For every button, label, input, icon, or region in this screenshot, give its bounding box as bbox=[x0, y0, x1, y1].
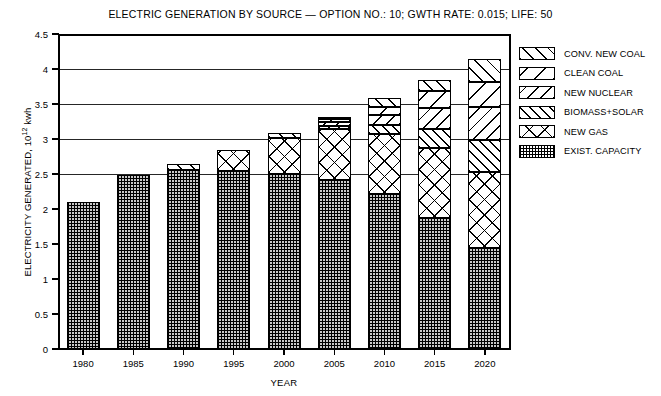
bar-segment-exist-capacity bbox=[167, 170, 200, 349]
x-axis-label: 2020 bbox=[455, 358, 515, 369]
legend-label: BIOMASS+SOLAR bbox=[564, 107, 644, 117]
x-axis-tick bbox=[484, 349, 485, 355]
bar-segment-new-nuclear bbox=[468, 107, 501, 141]
x-axis-tick bbox=[334, 349, 335, 355]
legend-label: CONV. NEW COAL bbox=[564, 49, 645, 59]
x-axis-tick bbox=[384, 349, 385, 355]
bar-2015 bbox=[418, 34, 451, 349]
bar-segment-exist-capacity bbox=[217, 171, 250, 350]
bar-segment-exist-capacity bbox=[318, 180, 351, 349]
bar-segment-exist-capacity bbox=[67, 202, 100, 349]
x-axis-tick bbox=[283, 349, 284, 355]
legend-label: NEW NUCLEAR bbox=[564, 88, 633, 98]
legend-label: CLEAN COAL bbox=[564, 68, 623, 78]
bar-2000 bbox=[268, 34, 301, 349]
y-axis-label: 3.5 bbox=[2, 99, 48, 110]
bar-segment-new-gas bbox=[318, 129, 351, 179]
bar-segment-clean-coal bbox=[418, 91, 451, 108]
bar-segment-exist-capacity bbox=[368, 194, 401, 349]
y-axis-label: 0.5 bbox=[2, 309, 48, 320]
legend-item: NEW NUCLEAR bbox=[519, 83, 659, 103]
bar-2010 bbox=[368, 34, 401, 349]
bar-2005 bbox=[318, 34, 351, 349]
bar-1980 bbox=[67, 34, 100, 349]
bar-2020 bbox=[468, 34, 501, 349]
x-axis-tick bbox=[133, 349, 134, 355]
bar-segment-biomass-solar bbox=[368, 125, 401, 134]
y-axis-label: 4 bbox=[2, 64, 48, 75]
legend-item: CLEAN COAL bbox=[519, 64, 659, 84]
x-axis-tick bbox=[233, 349, 234, 355]
bar-segment-biomass-solar bbox=[468, 140, 501, 172]
bar-segment-clean-coal bbox=[318, 119, 351, 122]
legend-item: BIOMASS+SOLAR bbox=[519, 103, 659, 123]
legend-swatch-icon bbox=[519, 67, 555, 80]
y-axis-label: 2 bbox=[2, 204, 48, 215]
legend-swatch-icon bbox=[519, 47, 555, 60]
bar-1995 bbox=[217, 34, 250, 349]
bar-segment-new-nuclear bbox=[368, 115, 401, 125]
x-axis-title: YEAR bbox=[58, 377, 510, 388]
legend-swatch-icon bbox=[519, 86, 555, 99]
bar-1990 bbox=[167, 34, 200, 349]
bar-segment-new-gas bbox=[418, 148, 451, 218]
x-axis-tick bbox=[82, 349, 83, 355]
legend-label: NEW GAS bbox=[564, 127, 608, 137]
chart-legend: CONV. NEW COALCLEAN COALNEW NUCLEARBIOMA… bbox=[519, 44, 659, 161]
legend-swatch-icon bbox=[519, 106, 555, 119]
bar-segment-new-nuclear bbox=[418, 108, 451, 129]
bar-segment-exist-capacity bbox=[268, 174, 301, 349]
bar-segment-exist-capacity bbox=[117, 175, 150, 349]
bar-segment-exist-capacity bbox=[468, 248, 501, 350]
bar-segment-conv-new-coal bbox=[368, 98, 401, 106]
bar-segment-new-gas bbox=[217, 150, 250, 171]
bar-segment-conv-new-coal bbox=[318, 117, 351, 120]
legend-item: NEW GAS bbox=[519, 122, 659, 142]
x-axis-tick bbox=[183, 349, 184, 355]
plot-area bbox=[58, 34, 510, 349]
y-axis-label: 0 bbox=[2, 344, 48, 355]
bar-segment-new-nuclear bbox=[318, 122, 351, 126]
legend-label: EXIST. CAPACITY bbox=[564, 146, 641, 156]
bar-segment-conv-new-coal bbox=[167, 164, 200, 170]
bar-segment-clean-coal bbox=[368, 107, 401, 115]
x-axis-tick bbox=[434, 349, 435, 355]
bar-1985 bbox=[117, 34, 150, 349]
legend-item: CONV. NEW COAL bbox=[519, 44, 659, 64]
bar-segment-conv-new-coal bbox=[418, 80, 451, 91]
y-axis-label: 4.5 bbox=[2, 29, 48, 40]
y-axis-label: 1.5 bbox=[2, 239, 48, 250]
bar-segment-exist-capacity bbox=[418, 218, 451, 349]
bar-segment-new-gas bbox=[268, 138, 301, 174]
bar-segment-biomass-solar bbox=[318, 126, 351, 130]
chart-title: ELECTRIC GENERATION BY SOURCE — OPTION N… bbox=[0, 8, 661, 20]
legend-swatch-icon bbox=[519, 125, 555, 138]
legend-item: EXIST. CAPACITY bbox=[519, 142, 659, 162]
bar-segment-new-gas bbox=[468, 172, 501, 248]
bar-segment-conv-new-coal bbox=[268, 133, 301, 137]
chart-figure: ELECTRIC GENERATION BY SOURCE — OPTION N… bbox=[0, 0, 661, 396]
y-axis-labels: 00.511.522.533.544.5 bbox=[0, 0, 48, 396]
legend-swatch-icon bbox=[519, 145, 555, 158]
y-axis-label: 1 bbox=[2, 274, 48, 285]
y-axis-label: 2.5 bbox=[2, 169, 48, 180]
bar-segment-new-gas bbox=[368, 134, 401, 194]
y-axis-label: 3 bbox=[2, 134, 48, 145]
bar-segment-conv-new-coal bbox=[468, 59, 501, 82]
bar-segment-biomass-solar bbox=[418, 129, 451, 149]
bar-segment-clean-coal bbox=[468, 82, 501, 107]
